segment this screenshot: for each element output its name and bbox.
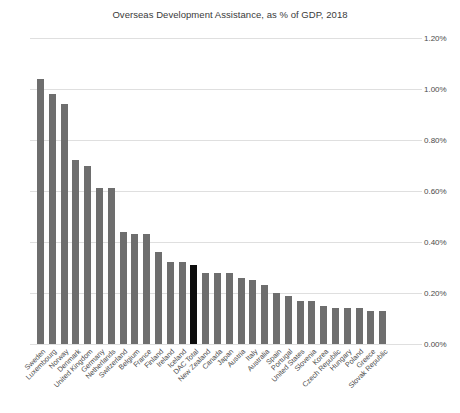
chart-title: Overseas Development Assistance, as % of… <box>0 9 460 20</box>
bar[interactable] <box>202 273 209 344</box>
bar[interactable] <box>332 308 339 344</box>
bar[interactable] <box>108 188 115 344</box>
chart-figure: Overseas Development Assistance, as % of… <box>0 0 460 413</box>
bar[interactable] <box>356 308 363 344</box>
bar[interactable] <box>308 301 315 344</box>
y-tick-label: 0.20% <box>424 289 447 298</box>
bar[interactable] <box>214 273 221 344</box>
bar[interactable] <box>190 265 197 344</box>
bar[interactable] <box>261 285 268 344</box>
bar[interactable] <box>61 104 68 344</box>
bar[interactable] <box>96 188 103 344</box>
bar[interactable] <box>72 160 79 344</box>
bar[interactable] <box>367 311 374 344</box>
bar[interactable] <box>120 232 127 344</box>
bar[interactable] <box>167 262 174 344</box>
bar[interactable] <box>49 94 56 344</box>
y-tick-label: 1.00% <box>424 85 447 94</box>
bar[interactable] <box>37 79 44 344</box>
bar[interactable] <box>344 308 351 344</box>
bar[interactable] <box>143 234 150 344</box>
bar[interactable] <box>379 311 386 344</box>
y-tick-label: 0.60% <box>424 187 447 196</box>
bar[interactable] <box>226 273 233 344</box>
bar[interactable] <box>179 262 186 344</box>
bar[interactable] <box>238 278 245 344</box>
y-tick-label: 1.20% <box>424 34 447 43</box>
bar[interactable] <box>131 234 138 344</box>
plot-area <box>30 38 422 344</box>
y-tick-label: 0.40% <box>424 238 447 247</box>
bar[interactable] <box>320 306 327 344</box>
bar[interactable] <box>249 280 256 344</box>
x-axis-tick-labels: SwedenLuxembourgNorwayDenmarkUnited King… <box>0 344 460 413</box>
bar[interactable] <box>84 166 91 345</box>
bar[interactable] <box>155 252 162 344</box>
bar[interactable] <box>297 301 304 344</box>
y-tick-label: 0.80% <box>424 136 447 145</box>
bars-group <box>30 38 422 344</box>
bar[interactable] <box>285 296 292 344</box>
bar[interactable] <box>273 293 280 344</box>
